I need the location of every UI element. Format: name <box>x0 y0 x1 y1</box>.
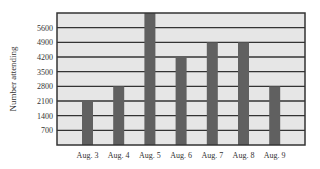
bar <box>144 13 155 145</box>
bar <box>176 57 187 145</box>
x-axis-ticks: Aug. 3Aug. 4Aug. 5Aug. 6Aug. 7Aug. 8Aug.… <box>77 151 286 160</box>
y-tick-label: 2800 <box>37 82 53 91</box>
y-tick-label: 700 <box>41 126 53 135</box>
x-tick-label: Aug. 8 <box>233 151 255 160</box>
x-tick-label: Aug. 3 <box>77 151 99 160</box>
y-axis-label: Number attending <box>8 46 18 112</box>
x-tick-label: Aug. 4 <box>108 151 130 160</box>
x-tick-label: Aug. 6 <box>170 151 192 160</box>
bar-chart: 7001400210028003500420049005600 Aug. 3Au… <box>0 0 320 169</box>
x-tick-label: Aug. 9 <box>264 151 286 160</box>
y-tick-label: 4900 <box>37 38 53 47</box>
bar <box>82 101 93 145</box>
y-tick-label: 4200 <box>37 53 53 62</box>
bar <box>238 42 249 145</box>
y-tick-label: 3500 <box>37 68 53 77</box>
bar <box>269 86 280 145</box>
y-tick-label: 2100 <box>37 97 53 106</box>
y-tick-label: 1400 <box>37 112 53 121</box>
bar <box>113 86 124 145</box>
y-axis-ticks: 7001400210028003500420049005600 <box>37 24 53 136</box>
y-tick-label: 5600 <box>37 24 53 33</box>
x-tick-label: Aug. 5 <box>139 151 161 160</box>
bar <box>207 42 218 145</box>
x-tick-label: Aug. 7 <box>201 151 223 160</box>
